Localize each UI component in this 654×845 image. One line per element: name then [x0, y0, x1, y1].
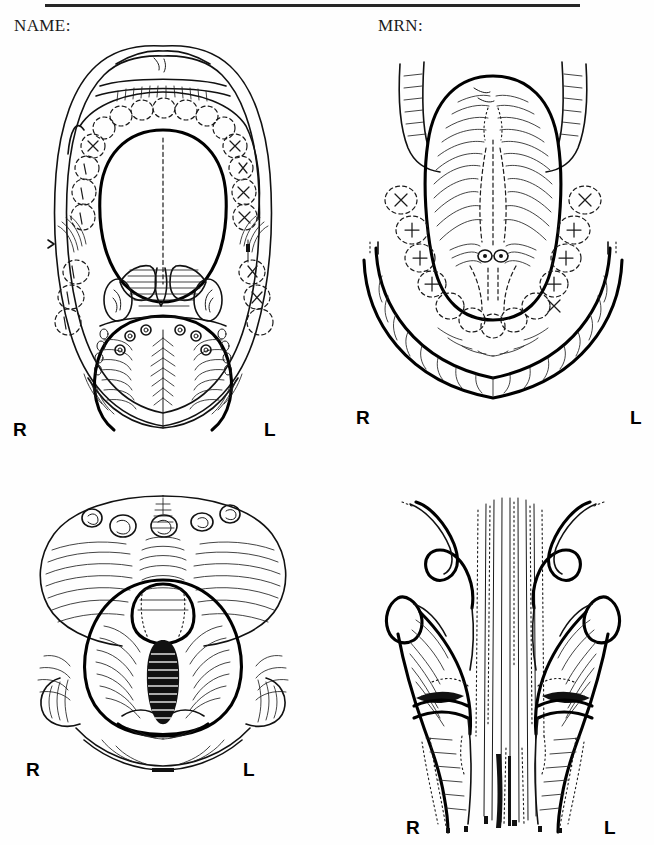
hypopharynx-diagram[interactable]: [368, 486, 638, 834]
floor-of-mouth-left-marker: L: [630, 408, 642, 427]
floor-of-mouth-svg: [338, 52, 648, 422]
header-divider: [45, 4, 580, 7]
exam-diagram-page: NAME: MRN:: [0, 0, 654, 845]
hypopharynx-right-marker: R: [406, 818, 420, 837]
floor-of-mouth-diagram[interactable]: [338, 52, 648, 422]
larynx-left-marker: L: [243, 760, 255, 779]
floor-of-mouth-right-marker: R: [356, 408, 370, 427]
oral-cavity-diagram[interactable]: [8, 34, 318, 434]
hypopharynx-svg: [368, 486, 638, 834]
name-field-label: NAME:: [14, 16, 71, 36]
hypopharynx-left-marker: L: [604, 818, 616, 837]
larynx-svg: [18, 488, 308, 773]
larynx-right-marker: R: [26, 760, 40, 779]
oral-cavity-svg: [8, 34, 318, 434]
oral-cavity-right-marker: R: [13, 420, 27, 439]
oral-cavity-left-marker: L: [264, 420, 276, 439]
larynx-diagram[interactable]: [18, 488, 308, 773]
mrn-field-label: MRN:: [378, 16, 423, 36]
